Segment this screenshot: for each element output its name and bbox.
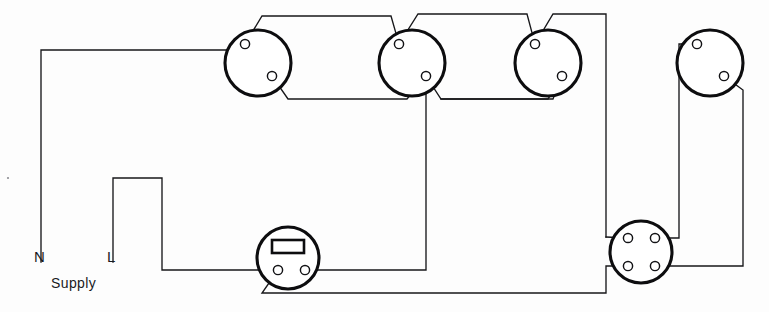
- lamp-4-body: [677, 30, 743, 96]
- lamp-3-terminal-top[interactable]: [530, 39, 539, 48]
- lamp-2-terminal-bottom[interactable]: [421, 71, 430, 80]
- lamp-1-terminal-bottom[interactable]: [267, 71, 276, 80]
- wiring-diagram: N L Supply: [0, 0, 769, 312]
- junction-terminal-top-right[interactable]: [650, 233, 659, 242]
- wire-neutral-supply-run: [41, 44, 245, 262]
- supply-label: Supply: [51, 275, 96, 291]
- lamp-2-body: [379, 30, 445, 96]
- switch-rocker-icon[interactable]: [272, 240, 304, 253]
- wire-live-supply-run-to-switch: [113, 178, 278, 270]
- junction-terminal-bottom-left[interactable]: [623, 261, 632, 270]
- live-label: L: [107, 248, 116, 265]
- junction-terminal-bottom-right[interactable]: [650, 261, 659, 270]
- neutral-label: N: [34, 248, 45, 265]
- ceiling-rose-4[interactable]: [677, 30, 743, 96]
- lamp-1-terminal-top[interactable]: [240, 39, 249, 48]
- one-way-switch[interactable]: [257, 227, 319, 289]
- lamp-4-terminal-top[interactable]: [692, 39, 701, 48]
- wire-lamp2-bottom-dropper-to-switch: [305, 76, 426, 270]
- scan-artifact-speck: [7, 177, 9, 179]
- lamp-3-body: [515, 30, 581, 96]
- junction-terminal-top-left[interactable]: [623, 233, 632, 242]
- lamp-3-terminal-bottom[interactable]: [557, 71, 566, 80]
- junction-body: [610, 221, 672, 283]
- ceiling-rose-3[interactable]: [515, 30, 581, 96]
- lamp-2-terminal-top[interactable]: [394, 39, 403, 48]
- ceiling-rose-2[interactable]: [379, 30, 445, 96]
- lamp-4-terminal-bottom[interactable]: [719, 71, 728, 80]
- four-terminal-junction-box[interactable]: [610, 221, 672, 283]
- ceiling-rose-1[interactable]: [225, 30, 291, 96]
- switch-terminal-right[interactable]: [300, 265, 309, 274]
- switch-terminal-left[interactable]: [273, 265, 282, 274]
- wiring-diagram-canvas: N L Supply: [0, 0, 769, 312]
- switch-body: [257, 227, 319, 289]
- lamp-1-body: [225, 30, 291, 96]
